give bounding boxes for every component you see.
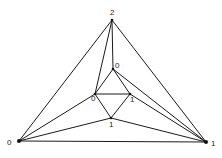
vertex-inner-top	[112, 68, 115, 71]
edge-inner-left-inner-bottom	[95, 94, 111, 118]
edge-inner-bottom-bottom-right	[111, 118, 206, 142]
edge-bottom-left-bottom-right	[19, 141, 206, 142]
labels-group: 2010011	[7, 8, 216, 148]
edge-inner-right-inner-bottom	[111, 94, 130, 118]
edge-inner-right-bottom-right	[130, 94, 206, 142]
edge-inner-top-inner-right	[113, 69, 130, 94]
vertex-label-bottom-left: 0	[7, 138, 12, 147]
edge-top-inner-top	[112, 20, 113, 69]
edge-inner-top-bottom-right	[113, 69, 206, 142]
edge-bottom-left-inner-left	[19, 94, 95, 141]
vertex-label-inner-bottom: 1	[109, 120, 114, 129]
vertex-label-inner-right: 1	[130, 95, 135, 104]
edge-top-bottom-right	[112, 20, 206, 142]
vertex-bottom-right	[204, 140, 208, 144]
vertex-label-bottom-right: 1	[211, 139, 216, 148]
vertex-bottom-left	[17, 139, 21, 143]
vertex-top	[111, 19, 114, 22]
vertex-label-inner-top: 0	[115, 61, 120, 70]
graph-diagram: 2010011	[0, 0, 222, 158]
vertex-label-inner-left: 0	[91, 94, 96, 103]
vertex-label-top: 2	[110, 8, 115, 17]
edge-bottom-left-inner-bottom	[19, 118, 111, 141]
vertex-inner-bottom	[110, 117, 113, 120]
